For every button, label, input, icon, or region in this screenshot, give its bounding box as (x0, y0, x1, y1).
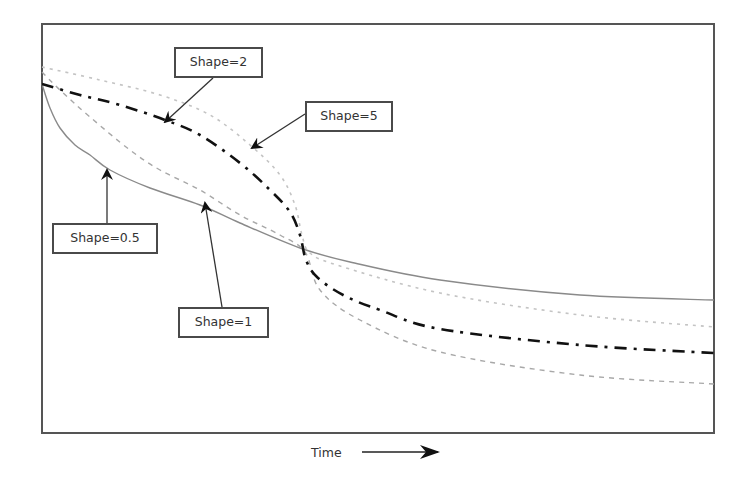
label-shape-5: Shape=5 (305, 101, 393, 132)
arrow-icon (205, 203, 222, 307)
label-shape-1: Shape=1 (178, 307, 269, 338)
arrow-icon (165, 78, 213, 122)
x-axis-arrow (362, 445, 440, 459)
label-shape-2: Shape=2 (174, 47, 263, 78)
x-axis-label: Time (311, 445, 342, 460)
label-shape-0-5: Shape=0.5 (52, 223, 158, 254)
arrow-icon (252, 114, 305, 148)
